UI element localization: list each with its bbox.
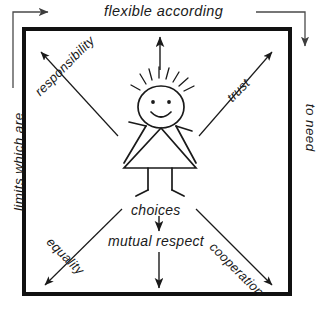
outer-label-left: limits which are — [12, 102, 26, 222]
outer-label-top: flexible according — [104, 4, 223, 19]
outer-label-right: to need — [303, 68, 317, 188]
figure-hair — [131, 67, 194, 91]
arrow-up-left-responsibility — [41, 52, 118, 136]
center-label-choices: choices — [131, 203, 181, 217]
figure-dress — [124, 128, 196, 168]
figure-smile — [151, 112, 171, 117]
figure-eye-right — [167, 100, 171, 104]
figure-eye-left — [151, 100, 155, 104]
figure-arm-left — [124, 126, 146, 163]
diagram-vector-layer — [0, 0, 318, 311]
figure-arm-left-upper — [129, 122, 146, 126]
figure-foot-right — [172, 190, 184, 196]
figure-foot-left — [136, 190, 148, 196]
figure-head — [138, 86, 184, 128]
stick-figure — [124, 67, 196, 196]
center-label-mutual-respect: mutual respect — [108, 234, 204, 248]
diagram-canvas: flexible according limits which are to n… — [0, 0, 318, 311]
